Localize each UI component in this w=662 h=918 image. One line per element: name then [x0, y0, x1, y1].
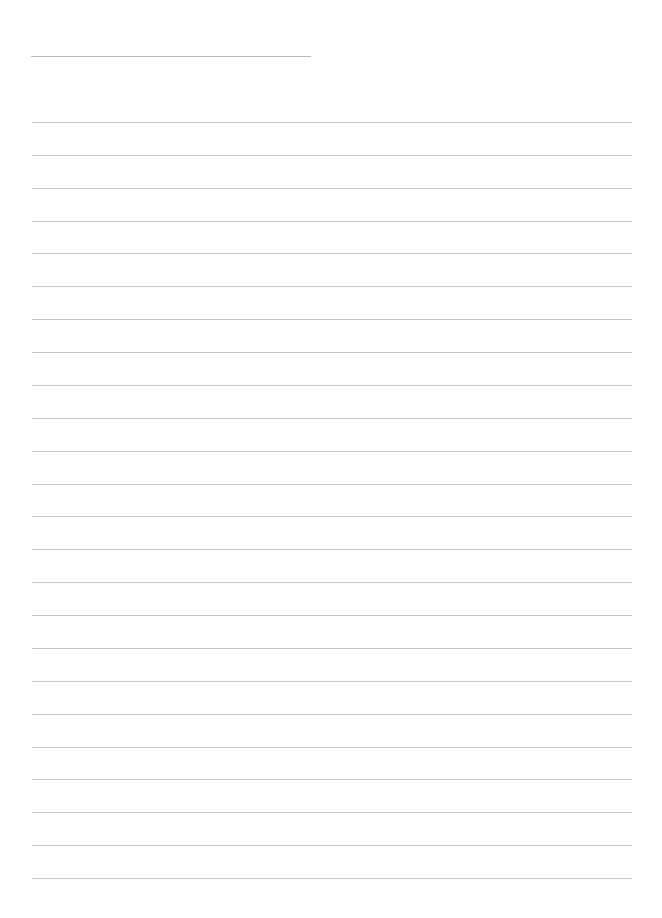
ruled-line: [32, 747, 632, 748]
ruled-line: [32, 648, 632, 649]
ruled-line: [32, 188, 632, 189]
ruled-line: [32, 221, 632, 222]
ruled-line: [32, 681, 632, 682]
ruled-line: [32, 779, 632, 780]
ruled-line: [32, 451, 632, 452]
ruled-line: [32, 253, 632, 254]
ruled-line: [32, 516, 632, 517]
ruled-line: [32, 812, 632, 813]
ruled-line: [32, 122, 632, 123]
ruled-line: [32, 352, 632, 353]
ruled-line: [32, 582, 632, 583]
ruled-line: [32, 549, 632, 550]
ruled-line: [32, 418, 632, 419]
header-title-line: [31, 56, 311, 57]
ruled-line: [32, 319, 632, 320]
ruled-line: [32, 155, 632, 156]
ruled-line: [32, 615, 632, 616]
ruled-line: [32, 878, 632, 879]
ruled-line: [32, 484, 632, 485]
ruled-line: [32, 714, 632, 715]
ruled-line: [32, 385, 632, 386]
ruled-line: [32, 286, 632, 287]
lined-paper-page: [0, 0, 662, 918]
ruled-line: [32, 845, 632, 846]
